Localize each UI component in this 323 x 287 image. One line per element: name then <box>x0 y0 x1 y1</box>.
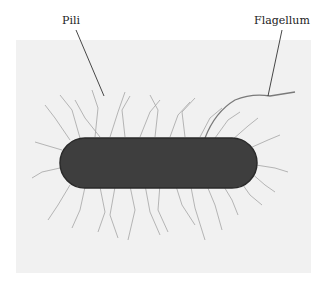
flagellum-leader-line <box>268 30 282 96</box>
pili-label: Pili <box>62 14 80 27</box>
bacterium-illustration <box>0 0 323 287</box>
cell-body <box>60 138 257 188</box>
pili-leader-line <box>76 30 104 96</box>
flagellum-fiber <box>205 92 295 138</box>
flagellum-label: Flagellum <box>254 14 310 27</box>
